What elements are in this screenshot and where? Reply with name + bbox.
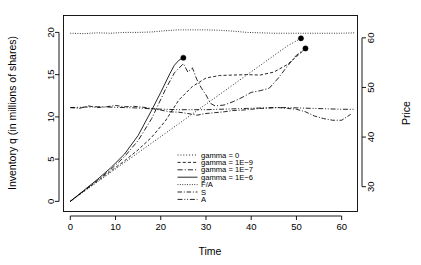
- endpoint-marker: [303, 46, 308, 51]
- y-tick-label-left: 5: [45, 156, 56, 161]
- endpoint-marker: [298, 36, 303, 41]
- x-tick-label: 50: [291, 221, 302, 232]
- y-tick-label-left: 0: [45, 199, 56, 204]
- y-tick-label-right: 50: [365, 82, 376, 93]
- x-axis-title: Time: [199, 245, 222, 257]
- y-tick-label-right: 30: [365, 181, 376, 192]
- y-axis-right-title: Price: [400, 101, 412, 125]
- x-tick-label: 60: [336, 221, 347, 232]
- inventory-price-line-chart: 0102030405060 05101520 30405060 Time Inv…: [0, 0, 421, 265]
- y-tick-label-right: 60: [365, 33, 376, 44]
- y-axis-left-title: Inventory q (in millions of shares): [6, 36, 18, 190]
- y-tick-label-left: 10: [45, 112, 56, 123]
- x-tick-label: 30: [201, 221, 212, 232]
- x-tick-label: 10: [110, 221, 121, 232]
- y-tick-label-left: 20: [45, 27, 56, 38]
- x-tick-label: 20: [155, 221, 166, 232]
- chart-figure: 0102030405060 05101520 30405060 Time Inv…: [0, 0, 421, 265]
- x-tick-label: 0: [68, 221, 73, 232]
- endpoint-marker: [181, 55, 186, 60]
- x-tick-label: 40: [246, 221, 257, 232]
- y-tick-label-right: 40: [365, 132, 376, 143]
- y-tick-label-left: 15: [45, 69, 56, 80]
